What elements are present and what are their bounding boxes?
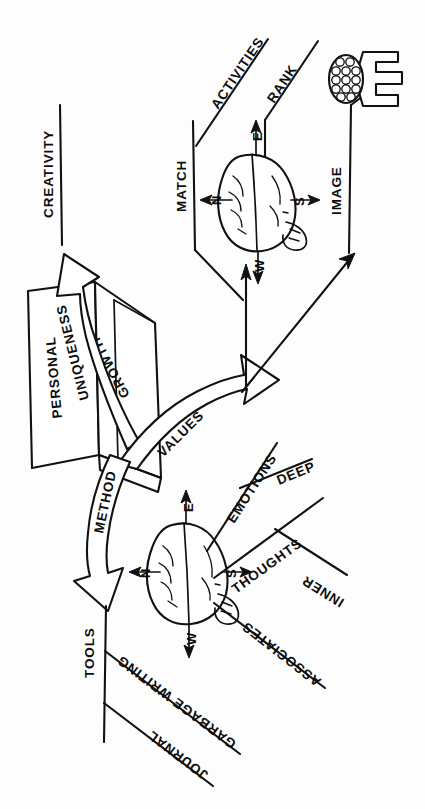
compass-upper-s-label: S bbox=[292, 197, 307, 206]
compass-upper-w-label: W bbox=[252, 259, 267, 272]
label-tools: TOOLS bbox=[82, 627, 97, 678]
handdrawn-mindmap: PERSONAL GROWTH UNIQUENESS CREATIVITY VA… bbox=[0, 0, 425, 809]
compass-upper-e-label: E bbox=[250, 132, 265, 141]
compass-upper-n-label: N bbox=[209, 196, 224, 205]
compass-lower-n-label: N bbox=[138, 569, 153, 578]
compass-lower-w-label: W bbox=[184, 632, 199, 645]
compass-lower-s-label: S bbox=[224, 569, 239, 578]
compass-lower-e-label: E bbox=[181, 503, 196, 512]
label-image: IMAGE bbox=[329, 166, 344, 215]
diagram-canvas: PERSONAL GROWTH UNIQUENESS CREATIVITY VA… bbox=[0, 0, 425, 809]
bramble-bracket-icon bbox=[329, 52, 402, 106]
label-creativity: CREATIVITY bbox=[41, 130, 56, 218]
label-match: MATCH bbox=[174, 160, 189, 212]
